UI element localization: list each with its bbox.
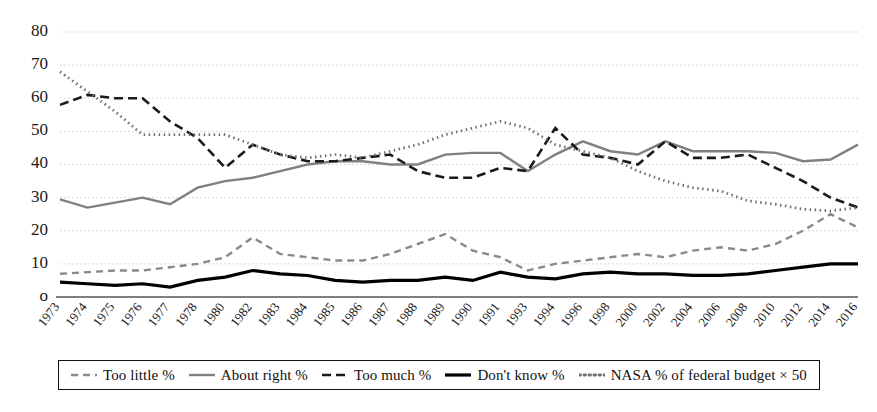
x-axis-tick-label: 1990	[447, 300, 475, 330]
x-axis-tick-label: 1980	[200, 300, 228, 330]
solid-gray-line-icon	[189, 370, 215, 380]
legend-item[interactable]: About right %	[189, 367, 308, 384]
line-chart: o1020304050607080 1973197419751976197719…	[0, 0, 877, 412]
x-axis-tick-label: 1984	[282, 299, 310, 329]
y-axis-tick-label: 70	[31, 54, 48, 73]
series-line	[60, 141, 858, 207]
x-axis-tick-label: 1996	[557, 299, 585, 329]
x-axis-tick-label: 1976	[117, 299, 145, 329]
chart-legend: Too little %About right %Too much %Don't…	[58, 360, 820, 390]
x-axis-tick-label: 2014	[805, 299, 833, 329]
x-axis-tick-label: 1991	[475, 300, 503, 330]
x-axis-tick-label: 2010	[750, 300, 778, 330]
x-axis-tick-label: 1985	[310, 300, 338, 330]
x-axis-tick-label: 2008	[722, 300, 750, 330]
y-axis-tick-label: o	[40, 286, 49, 305]
legend-item[interactable]: Too much %	[322, 367, 431, 384]
x-axis-tick-label: 1982	[227, 300, 255, 330]
dashed-gray-line-icon	[71, 370, 97, 380]
dashed-black-line-icon	[322, 370, 348, 380]
solid-black-line-icon	[445, 370, 471, 380]
legend-label: NASA % of federal budget × 50	[611, 367, 807, 384]
y-axis-tick-label: 50	[31, 120, 48, 139]
y-axis-tick-label: 40	[31, 153, 48, 172]
y-axis-tick-labels: o1020304050607080	[31, 21, 48, 305]
x-axis-tick-label: 1978	[172, 300, 200, 330]
x-axis-tick-label: 2002	[640, 300, 668, 330]
x-axis-tick-label: 2006	[695, 299, 723, 329]
legend-label: Too much %	[354, 367, 431, 384]
legend-item[interactable]: Don't know %	[445, 367, 564, 384]
gridlines	[60, 32, 858, 264]
y-axis-tick-label: 80	[31, 21, 48, 40]
x-axis-tick-label: 1993	[502, 300, 530, 330]
dotted-gray-line-icon	[579, 370, 605, 380]
x-axis-tick-label: 1998	[585, 300, 613, 330]
x-axis-tick-label: 1989	[420, 300, 448, 330]
legend-label: About right %	[221, 367, 308, 384]
legend-item[interactable]: NASA % of federal budget × 50	[579, 367, 807, 384]
x-axis-tick-label: 2000	[612, 300, 640, 330]
x-axis-tick-label: 1987	[365, 299, 393, 329]
series-line	[60, 72, 858, 211]
series-line	[60, 264, 858, 287]
legend-label: Too little %	[103, 367, 175, 384]
x-axis-tick-label: 1986	[337, 299, 365, 329]
legend-item[interactable]: Too little %	[71, 367, 175, 384]
x-axis-tick-label: 1983	[255, 300, 283, 330]
x-axis-tick-labels: 1973197419751976197719781980198219831984…	[35, 299, 861, 329]
legend-label: Don't know %	[477, 367, 564, 384]
x-axis-tick-label: 2012	[778, 300, 806, 330]
x-axis-tick-label: 1975	[90, 300, 118, 330]
y-axis-tick-label: 10	[31, 253, 48, 272]
x-axis-tick-label: 1977	[145, 299, 173, 329]
x-axis-tick-label: 1974	[62, 299, 90, 329]
chart-container: o1020304050607080 1973197419751976197719…	[0, 0, 877, 412]
series-line	[60, 214, 858, 274]
x-axis-tick-label: 1994	[530, 299, 558, 329]
x-axis-tick-label: 1988	[392, 300, 420, 330]
x-axis-tick-label: 2004	[667, 299, 695, 329]
series-lines	[60, 72, 858, 287]
y-axis-tick-label: 20	[31, 220, 48, 239]
y-axis-tick-label: 60	[31, 87, 48, 106]
x-axis-tick-label: 2016	[833, 299, 861, 329]
y-axis-tick-label: 30	[31, 187, 48, 206]
